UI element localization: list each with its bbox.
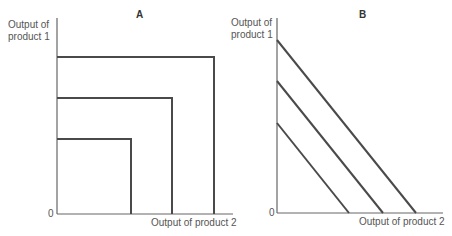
panel-b-ylabel-line1: Output of: [231, 17, 272, 29]
panel-a-ylabel-line2: product 1: [8, 31, 50, 43]
panel-a-curve-outer: [57, 57, 214, 214]
panel-a-title: A: [136, 9, 143, 20]
panel-b-line-outer: [277, 40, 416, 213]
panel-b-line-inner: [277, 123, 349, 213]
panel-b-line-middle: [277, 81, 383, 213]
panel-a-xlabel: Output of product 2: [151, 217, 237, 229]
panel-b-ylabel-line2: product 1: [231, 29, 273, 41]
panel-a-curve-inner: [57, 139, 131, 214]
panel-b-title: B: [359, 9, 366, 20]
panel-a-origin-label: 0: [48, 208, 54, 220]
panel-b-xlabel: Output of product 2: [359, 216, 445, 228]
panel-a-ylabel-line1: Output of: [8, 19, 49, 31]
panel-a-curve-middle: [57, 98, 172, 214]
panel-a-axes: [57, 18, 233, 214]
diagram-canvas: [0, 0, 452, 236]
panel-b-origin-label: 0: [269, 207, 275, 219]
